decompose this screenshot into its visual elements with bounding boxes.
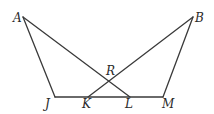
point-label-l: L — [124, 97, 133, 111]
point-label-m: M — [161, 97, 175, 111]
segments — [23, 17, 193, 97]
point-label-b: B — [194, 11, 204, 25]
segment-bk — [88, 17, 193, 97]
geometry-diagram: ABJKLMR — [0, 0, 214, 114]
point-label-j: J — [42, 97, 51, 111]
point-label-r: R — [105, 64, 115, 78]
point-label-k: K — [81, 97, 92, 111]
point-label-a: A — [12, 11, 22, 25]
